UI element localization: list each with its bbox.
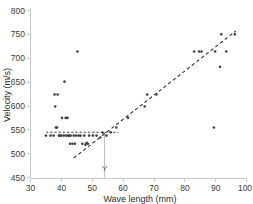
data-point: [92, 134, 95, 137]
y-tick-label: 700: [11, 53, 25, 63]
data-point: [72, 134, 75, 137]
data-point: [146, 93, 149, 96]
data-point: [76, 50, 79, 53]
data-point: [52, 134, 55, 137]
data-point: [99, 136, 102, 139]
chart-canvas: 800 750 700 650 600 550 500 450 30 40 50: [0, 0, 253, 204]
data-point: [225, 50, 228, 53]
data-point: [115, 126, 118, 129]
data-point: [83, 134, 86, 137]
data-point: [95, 134, 98, 137]
data-point: [81, 142, 84, 145]
y-tick-group: 800 750 700 650 600 550 500 450: [11, 6, 31, 183]
data-point: [71, 142, 74, 145]
data-point: [69, 134, 72, 137]
data-point: [63, 80, 66, 83]
data-point: [219, 66, 222, 69]
data-point: [127, 117, 130, 120]
data-point: [105, 134, 108, 137]
data-point: [200, 50, 203, 53]
y-tick-label: 550: [11, 125, 25, 135]
data-point: [54, 105, 57, 108]
scatter-chart: 800 750 700 650 600 550 500 450 30 40 50: [0, 0, 253, 204]
data-point: [45, 134, 48, 137]
x-tick-label: 30: [26, 183, 36, 193]
trend-line: [74, 31, 236, 158]
x-axis-title: Wave length (mm): [103, 194, 176, 204]
data-point: [214, 50, 217, 53]
y-axis-title: Velocity (m/s): [2, 68, 12, 122]
x-tick-label: 100: [238, 183, 252, 193]
data-point: [79, 134, 82, 137]
data-point: [53, 93, 56, 96]
y-tick-label: 600: [11, 101, 25, 111]
data-point: [66, 117, 69, 120]
data-point: [198, 50, 201, 53]
data-point: [56, 126, 59, 129]
y-marker-annotation: Y: [102, 164, 108, 173]
data-point: [101, 131, 104, 134]
data-point: [56, 93, 59, 96]
data-point: [61, 117, 64, 120]
y-tick-label: 800: [11, 6, 25, 16]
data-point: [213, 126, 216, 129]
x-tick-label: 50: [88, 183, 98, 193]
y-tick-label: 650: [11, 77, 25, 87]
data-point: [143, 105, 146, 108]
x-tick-label: 40: [57, 183, 67, 193]
reference-lines-group: [46, 132, 119, 177]
data-point: [220, 33, 223, 36]
y-tick-label: 750: [11, 29, 25, 39]
data-point: [234, 33, 237, 36]
data-point: [49, 134, 52, 137]
x-tick-label: 80: [180, 183, 190, 193]
data-point: [63, 134, 66, 137]
axes-group: [31, 8, 248, 179]
y-tick-label: 500: [11, 149, 25, 159]
data-point: [75, 134, 78, 137]
data-point: [60, 134, 63, 137]
data-point: [155, 93, 158, 96]
x-tick-label: 70: [149, 183, 159, 193]
data-point: [193, 50, 196, 53]
x-tick-group: 30 40 50 60 70 80 90 100: [26, 179, 253, 194]
data-points-group: [45, 33, 237, 146]
data-point: [88, 134, 91, 137]
data-point: [74, 142, 77, 145]
x-tick-label: 90: [211, 183, 221, 193]
y-tick-label: 450: [11, 173, 25, 183]
x-tick-label: 60: [118, 183, 128, 193]
data-point: [87, 142, 90, 145]
data-point: [69, 142, 72, 145]
data-point: [109, 131, 112, 134]
